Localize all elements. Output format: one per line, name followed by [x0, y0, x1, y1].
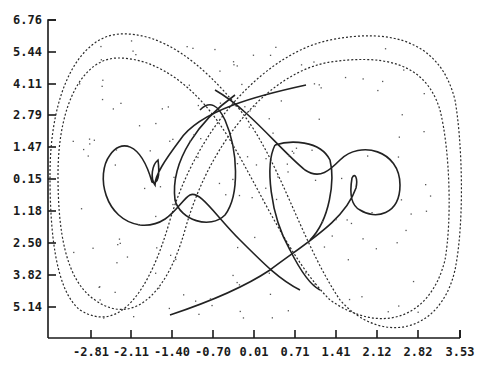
right-heart-loop — [270, 142, 332, 290]
scatter-point — [288, 310, 289, 311]
scatter-point — [160, 186, 161, 187]
scatter-point — [363, 78, 364, 79]
scatter-point — [314, 83, 315, 84]
scatter-point — [102, 99, 103, 100]
left-heart-loop — [174, 95, 235, 222]
scatter-point — [138, 224, 139, 225]
scatter-point — [233, 61, 234, 62]
scatter-point — [187, 46, 188, 47]
scatter-point — [249, 110, 250, 111]
scatter-point — [265, 158, 266, 159]
scatter-point — [239, 195, 240, 196]
scatter-point — [287, 164, 288, 165]
scatter-point — [276, 199, 277, 200]
scatter-point — [89, 139, 90, 140]
scatter-point — [288, 155, 289, 156]
scatter-point — [319, 119, 320, 120]
scatter-point — [362, 238, 363, 239]
scatter-point — [73, 141, 74, 142]
scatter-point — [119, 239, 120, 240]
scatter-point — [175, 259, 176, 260]
phase-plot-chart: 6.765.444.112.791.470.151.182.503.825.14… — [0, 0, 498, 368]
scatter-point — [382, 81, 383, 82]
scatter-point — [101, 59, 102, 60]
scatter-point — [144, 188, 145, 189]
scatter-point — [349, 299, 350, 300]
y-tick-label: 2.50 — [13, 236, 42, 250]
y-tick-label: 4.11 — [13, 77, 42, 91]
scatter-point — [183, 294, 184, 295]
scatter-point — [103, 317, 104, 318]
scatter-point — [197, 157, 198, 158]
scatter-point — [83, 149, 84, 150]
y-axis-ticks: 6.765.444.112.791.470.151.182.503.825.14 — [13, 13, 56, 314]
scatter-point — [115, 164, 116, 165]
scatter-point — [247, 156, 248, 157]
y-tick-label: 1.18 — [13, 204, 42, 218]
y-tick-label: 5.14 — [13, 300, 42, 314]
scatter-point — [361, 296, 362, 297]
scatter-point — [292, 151, 293, 152]
scatter-point — [315, 180, 316, 181]
scatter-point — [313, 61, 314, 62]
scatter-point — [198, 314, 199, 315]
scatter-point — [211, 305, 212, 306]
scatter-point — [270, 294, 271, 295]
scatter-point — [244, 106, 245, 107]
scatter-point — [405, 230, 406, 231]
scatter-point — [225, 194, 226, 195]
scatter-point — [169, 141, 170, 142]
scatter-point — [254, 237, 255, 238]
scatter-point — [132, 51, 133, 52]
scatter-point — [120, 103, 121, 104]
scatter-point — [301, 64, 302, 65]
scatter-point — [100, 299, 101, 300]
scatter-point — [311, 150, 312, 151]
scatter-point — [232, 275, 233, 276]
scatter-point — [131, 40, 132, 41]
scatter-points — [73, 40, 432, 318]
scatter-point — [348, 259, 349, 260]
scatter-point — [324, 246, 325, 247]
scatter-point — [81, 208, 82, 209]
scatter-point — [239, 284, 240, 285]
scatter-point — [322, 221, 323, 222]
y-tick-label: 1.47 — [13, 140, 42, 154]
scatter-point — [210, 298, 211, 299]
scatter-point — [79, 83, 80, 84]
scatter-point — [335, 219, 336, 220]
scatter-point — [341, 178, 342, 179]
scatter-point — [88, 155, 89, 156]
x-tick-label: 0.71 — [281, 345, 310, 359]
scatter-point — [397, 242, 398, 243]
scatter-point — [430, 195, 431, 196]
inner-trajectories — [103, 85, 400, 315]
scatter-point — [73, 252, 74, 253]
scatter-point — [170, 255, 171, 256]
scatter-point — [172, 204, 173, 205]
scatter-point — [237, 247, 238, 248]
scatter-point — [150, 150, 151, 151]
x-axis-ticks: -2.81-2.11-1.40-0.700.010.711.412.122.82… — [73, 330, 475, 359]
scatter-point — [265, 188, 266, 189]
scatter-point — [100, 46, 101, 47]
scatter-point — [155, 216, 156, 217]
scatter-point — [281, 100, 282, 101]
scatter-point — [155, 273, 156, 274]
scatter-point — [113, 108, 114, 109]
scatter-point — [272, 133, 273, 134]
scatter-point — [296, 148, 297, 149]
scatter-point — [133, 316, 134, 317]
scatter-point — [287, 171, 288, 172]
scatter-point — [102, 86, 103, 87]
scatter-point — [233, 146, 234, 147]
scatter-point — [345, 77, 346, 78]
scatter-point — [102, 80, 103, 81]
scatter-point — [403, 69, 404, 70]
scatter-point — [424, 93, 425, 94]
scatter-point — [237, 65, 238, 66]
scatter-point — [233, 64, 234, 65]
scatter-point — [399, 137, 400, 138]
x-tick-label: 2.82 — [404, 345, 433, 359]
scatter-point — [401, 199, 402, 200]
